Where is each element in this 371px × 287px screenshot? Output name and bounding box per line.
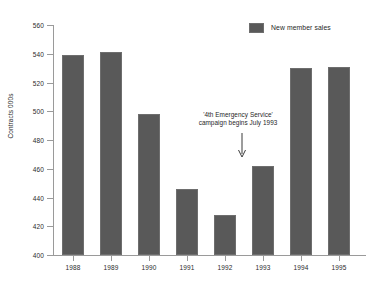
legend-label-new-member-sales: New member sales	[271, 24, 331, 32]
x-tick-1989	[111, 256, 112, 261]
y-tick-label-400: 400	[4, 252, 44, 259]
x-tick-label-1993: 1993	[243, 264, 283, 272]
y-tick-label-560: 560	[4, 22, 44, 29]
campaign-annotation: '4th Emergency Service' campaign begins …	[186, 111, 290, 127]
bar-1993	[252, 166, 274, 255]
x-tick-label-1991: 1991	[167, 264, 207, 272]
y-tick-label-540: 540	[4, 51, 44, 58]
x-tick-1990	[149, 256, 150, 261]
bar-1990	[138, 114, 160, 255]
annotation-arrow-down-icon	[236, 133, 248, 159]
x-tick-label-1992: 1992	[205, 264, 245, 272]
x-tick-label-1990: 1990	[129, 264, 169, 272]
y-tick-label-520: 520	[4, 80, 44, 87]
plot-area	[53, 25, 366, 255]
x-tick-1993	[263, 256, 264, 261]
x-axis-line	[53, 255, 366, 256]
y-axis-title: Contracts 000s	[7, 61, 15, 171]
bar-1991	[176, 189, 198, 255]
bar-1994	[290, 68, 312, 255]
legend: New member sales	[249, 23, 331, 33]
y-tick-label-440: 440	[4, 195, 44, 202]
y-tick-label-480: 480	[4, 137, 44, 144]
x-tick-1995	[339, 256, 340, 261]
bar-1995	[328, 67, 350, 255]
x-tick-label-1988: 1988	[53, 264, 93, 272]
x-tick-1991	[187, 256, 188, 261]
legend-swatch-new-member-sales	[249, 23, 264, 33]
x-tick-1994	[301, 256, 302, 261]
x-tick-label-1994: 1994	[281, 264, 321, 272]
bar-1988	[62, 55, 84, 255]
y-tick-label-460: 460	[4, 166, 44, 173]
annotation-line-1: '4th Emergency Service'	[186, 111, 290, 119]
bar-chart: Contracts 000s 560 540 520 500 480 460 4…	[0, 0, 371, 287]
x-tick-label-1995: 1995	[319, 264, 359, 272]
y-tick-label-420: 420	[4, 223, 44, 230]
annotation-line-2: campaign begins July 1993	[186, 119, 290, 127]
x-tick-1988	[73, 256, 74, 261]
bar-1989	[100, 52, 122, 255]
y-tick-400	[47, 255, 53, 256]
x-tick-label-1989: 1989	[91, 264, 131, 272]
y-tick-label-500: 500	[4, 108, 44, 115]
bar-1992	[214, 215, 236, 255]
x-tick-1992	[225, 256, 226, 261]
